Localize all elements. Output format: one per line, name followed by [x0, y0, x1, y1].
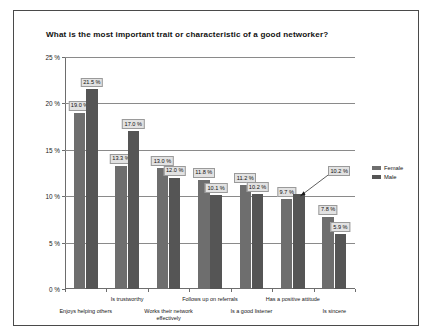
x-tick-mark [272, 289, 273, 292]
y-tick-mark [62, 57, 65, 58]
y-tick-label: 10 % [45, 193, 60, 200]
y-tick-mark [62, 150, 65, 151]
bar-value-label: 21.5 % [81, 78, 103, 88]
y-tick-label: 0 % [49, 286, 60, 293]
legend-label: Female [384, 165, 403, 171]
bar-female[interactable]: 13.0 % [157, 168, 169, 289]
bar-female[interactable]: 19.0 % [74, 113, 86, 289]
bar-male[interactable]: 5.9 % [335, 234, 347, 289]
x-tick-mark [189, 289, 190, 292]
y-tick-mark [62, 196, 65, 197]
legend-label: Male [384, 174, 397, 180]
x-tick-mark [231, 289, 232, 292]
bar-group: 13.3 %17.0 % [115, 57, 139, 289]
bar-male[interactable]: 17.0 % [128, 131, 140, 289]
bar-group: 19.0 %21.5 % [74, 57, 98, 289]
x-category-label: Is a good listener [218, 308, 285, 315]
x-category-label: Follows up on referrals [176, 296, 243, 303]
x-category-label: Enjoys helping others [52, 308, 119, 315]
bar-value-label: 10.1 % [205, 183, 227, 193]
x-tick-mark [148, 289, 149, 292]
y-tick-label: 5 % [49, 239, 60, 246]
bar-value-label: 17.0 % [122, 119, 144, 129]
x-category-label: Is sincere [301, 308, 368, 315]
bar-value-label: 7.8 % [318, 205, 337, 215]
bar-value-label: 5.9 % [331, 222, 350, 232]
bar-male[interactable]: 10.2 % [252, 194, 264, 289]
callout-value-label: 10.2 % [328, 166, 350, 176]
x-category-label: Works their network effectively [135, 308, 202, 323]
bar-female[interactable]: 11.2 % [240, 185, 252, 289]
y-tick-label: 20 % [45, 100, 60, 107]
bar-value-label: 10.2 % [246, 182, 268, 192]
bar-group: 11.2 %10.2 % [240, 57, 264, 289]
chart-title: What is the most important trait or char… [46, 30, 328, 39]
y-tick-mark [62, 103, 65, 104]
chart-frame: What is the most important trait or char… [13, 10, 419, 326]
legend-item[interactable]: Female [372, 165, 403, 171]
bar-male[interactable]: 12.0 % [169, 178, 181, 289]
x-tick-mark [65, 289, 66, 292]
bar-female[interactable]: 9.7 % [281, 199, 293, 289]
legend: FemaleMale [372, 165, 403, 183]
x-category-label: Has a positive attitude [259, 296, 326, 303]
x-tick-mark [314, 289, 315, 292]
y-tick-label: 25 % [45, 54, 60, 61]
legend-item[interactable]: Male [372, 174, 403, 180]
y-axis-line [65, 57, 66, 289]
bar-female[interactable]: 11.8 % [198, 180, 210, 290]
legend-swatch-icon [372, 175, 381, 179]
bar-male[interactable]: 10.1 % [210, 195, 222, 289]
plot-area: 0 %5 %10 %15 %20 %25 % 19.0 %21.5 %13.3 … [65, 57, 355, 289]
bar-female[interactable]: 13.3 % [115, 166, 127, 289]
bar-male[interactable] [293, 194, 305, 289]
bar-value-label: 11.8 % [193, 168, 215, 178]
bar-male[interactable]: 21.5 % [86, 89, 98, 289]
x-tick-mark [106, 289, 107, 292]
bar-group: 11.8 %10.1 % [198, 57, 222, 289]
bar-group: 9.7 % [281, 57, 305, 289]
x-tick-mark [355, 289, 356, 292]
x-category-label: Is trustworthy [93, 296, 160, 303]
legend-swatch-icon [372, 166, 381, 170]
y-tick-mark [62, 243, 65, 244]
bar-value-label: 12.0 % [163, 166, 185, 176]
y-tick-label: 15 % [45, 146, 60, 153]
bar-group: 13.0 %12.0 % [157, 57, 181, 289]
